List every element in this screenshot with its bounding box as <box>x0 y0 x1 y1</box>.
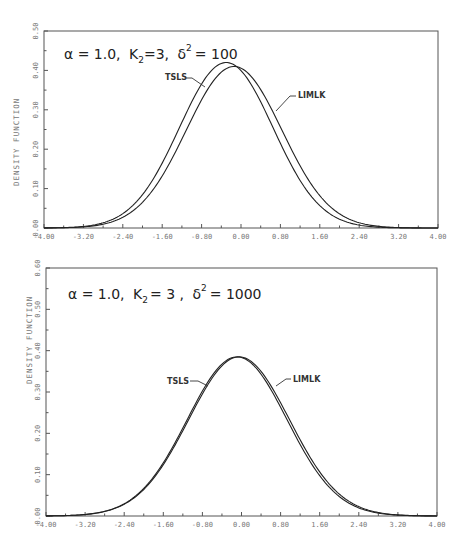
x-tick-label: -2.40 <box>112 233 133 241</box>
x-tick-label: 1.60 <box>311 521 328 529</box>
y-tick-label: 0.00 <box>32 220 40 237</box>
top-chart: -4.00-3.20-2.40-1.60-0.800.000.801.602.4… <box>12 23 446 241</box>
figure: -4.00-3.20-2.40-1.60-0.800.000.801.602.4… <box>0 0 468 554</box>
x-tick-label: 3.20 <box>390 233 407 241</box>
parameter-annotation: α = 1.0, K2=3, δ2= 100 <box>64 43 238 65</box>
limlk-label: LIMLK <box>293 375 321 384</box>
x-tick-label: 2.40 <box>350 521 367 529</box>
y-tick-label: 0.40 <box>34 342 42 359</box>
x-tick-label: 4.00 <box>429 521 446 529</box>
y-tick-label: 0.30 <box>32 101 40 118</box>
tsls-label: TSLS <box>165 73 187 82</box>
x-tick-label: 0.80 <box>272 521 289 529</box>
y-tick-label: 0.40 <box>32 62 40 79</box>
limlk-leader <box>276 379 291 386</box>
x-tick-label: -2.40 <box>114 521 135 529</box>
x-tick-label: -0.80 <box>191 233 212 241</box>
x-tick-label: 1.60 <box>311 233 328 241</box>
parameter-annotation: α = 1.0, K2= 3 , δ2= 1000 <box>68 283 262 305</box>
y-tick-label: 0.20 <box>34 425 42 442</box>
x-tick-label: -3.20 <box>73 233 94 241</box>
x-tick-label: 0.00 <box>233 233 250 241</box>
y-tick-label: 0.10 <box>32 180 40 197</box>
x-tick-label: -0.80 <box>192 521 213 529</box>
limlk-label: LIMLK <box>298 91 326 100</box>
tsls-curve <box>44 63 438 228</box>
x-tick-label: -1.60 <box>152 233 173 241</box>
limlk-curve <box>46 357 437 516</box>
y-tick-label: 0.50 <box>32 23 40 40</box>
plot-frame <box>46 268 437 516</box>
tsls-label: TSLS <box>167 377 189 386</box>
x-tick-label: 2.40 <box>351 233 368 241</box>
x-axis: -4.00-3.20-2.40-1.60-0.800.000.801.602.4… <box>35 512 445 529</box>
y-axis-label: DENSITY FUNCTION <box>12 98 21 186</box>
y-axis-label: DENSITY FUNCTION <box>25 296 34 384</box>
y-tick-label: 0.00 <box>34 508 42 525</box>
x-tick-label: 0.00 <box>233 521 250 529</box>
limlk-leader <box>276 96 296 111</box>
y-tick-label: 0.30 <box>34 384 42 401</box>
x-tick-label: 4.00 <box>430 233 447 241</box>
y-axis: 0.000.100.200.300.400.500.60 <box>34 260 50 525</box>
y-tick-label: 0.60 <box>34 260 42 277</box>
y-axis: 0.000.100.200.300.400.50 <box>32 23 48 237</box>
x-tick-label: 0.80 <box>272 233 289 241</box>
x-tick-label: -1.60 <box>153 521 174 529</box>
limlk-curve <box>44 66 438 227</box>
y-tick-label: 0.10 <box>34 466 42 483</box>
x-tick-label: 3.20 <box>389 521 406 529</box>
y-tick-label: 0.50 <box>34 301 42 318</box>
bottom-chart: -4.00-3.20-2.40-1.60-0.800.000.801.602.4… <box>25 260 445 529</box>
x-tick-label: -3.20 <box>75 521 96 529</box>
tsls-curve <box>46 357 437 516</box>
y-tick-label: 0.20 <box>32 141 40 158</box>
